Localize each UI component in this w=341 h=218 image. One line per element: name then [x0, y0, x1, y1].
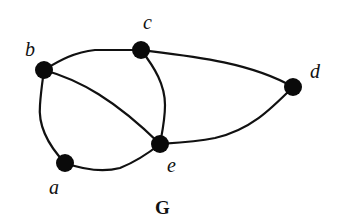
- edge-b-e: [44, 70, 160, 144]
- edge-d-e: [160, 87, 293, 144]
- graph-title: G: [155, 197, 170, 218]
- edge-c-d: [141, 50, 293, 87]
- node-label-e: e: [167, 154, 176, 176]
- node-b: [35, 61, 53, 79]
- edge-a-b: [40, 70, 65, 163]
- node-label-c: c: [143, 11, 152, 33]
- graph-canvas: b c d e a G: [0, 0, 341, 218]
- node-label-a: a: [49, 176, 59, 198]
- node-d: [284, 78, 302, 96]
- node-label-b: b: [25, 38, 35, 60]
- node-a: [56, 154, 74, 172]
- node-e: [151, 135, 169, 153]
- node-label-d: d: [310, 60, 321, 82]
- edge-a-e: [65, 144, 160, 170]
- node-c: [132, 41, 150, 59]
- edge-b-c: [44, 50, 141, 70]
